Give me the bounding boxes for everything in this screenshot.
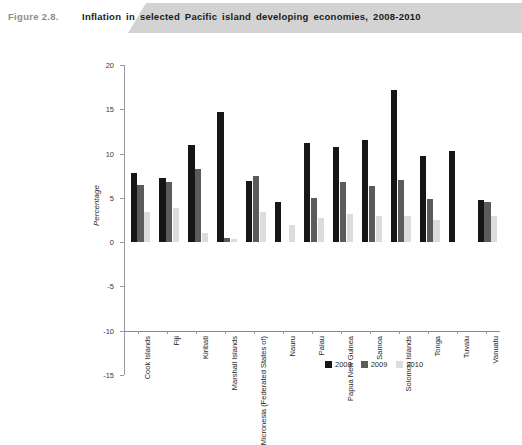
- bar: [260, 212, 266, 242]
- x-tick: [341, 331, 342, 334]
- bar: [188, 145, 194, 242]
- category-label: Tonga: [433, 336, 442, 356]
- y-tick--5: -5: [120, 286, 124, 287]
- y-tick-label: 5: [110, 193, 114, 202]
- y-tick-20: 20: [120, 65, 124, 66]
- figure-header: Figure 2.8. Inflation in selected Pacifi…: [0, 0, 522, 36]
- chart-figure: Percentage 20151050-5-10-15 Cook Islands…: [0, 36, 522, 390]
- y-tick-label: 0: [110, 238, 114, 247]
- figure-title: Inflation in selected Pacific island dev…: [82, 11, 421, 22]
- bar: [478, 200, 484, 243]
- bar: [484, 202, 490, 242]
- y-tick-label: 15: [106, 105, 114, 114]
- legend-swatch: [325, 361, 332, 368]
- chart-legend: 200820092010: [325, 360, 423, 369]
- y-tick-label: -10: [103, 326, 114, 335]
- x-tick: [370, 331, 371, 334]
- figure-number: Figure 2.8.: [8, 11, 59, 22]
- x-tick: [138, 331, 139, 334]
- x-tick: [399, 331, 400, 334]
- x-tick: [167, 331, 168, 334]
- y-tick-5: 5: [120, 198, 124, 199]
- y-tick-0: 0: [120, 242, 124, 243]
- bar: [376, 216, 382, 243]
- y-tick-15: 15: [120, 109, 124, 110]
- bar: [391, 90, 397, 242]
- category-label: Samoa: [375, 336, 384, 360]
- y-tick-label: -5: [107, 282, 114, 291]
- y-tick-10: 10: [120, 154, 124, 155]
- category-label: Palau: [317, 336, 326, 355]
- x-tick: [312, 331, 313, 334]
- x-tick: [428, 331, 429, 334]
- y-axis-line: [124, 65, 125, 375]
- bar: [427, 199, 433, 242]
- bar: [398, 180, 404, 242]
- bar: [433, 220, 439, 242]
- x-tick: [225, 331, 226, 334]
- bar: [289, 225, 295, 242]
- category-label: Fiji: [172, 336, 181, 346]
- bar: [369, 186, 375, 242]
- bar: [217, 112, 223, 242]
- x-tick: [486, 331, 487, 334]
- y-tick-label: -15: [103, 371, 114, 380]
- legend-item: 2008: [325, 360, 352, 369]
- category-label: Marshall Islands: [230, 336, 239, 390]
- legend-swatch: [396, 361, 403, 368]
- y-tick-label: 20: [106, 61, 114, 70]
- bar: [304, 143, 310, 242]
- y-tick-label: 10: [106, 149, 114, 158]
- bar: [420, 156, 426, 242]
- category-label: Micronesia (Federated States of): [259, 336, 268, 445]
- bar: [404, 216, 410, 243]
- category-label: Vanuatu: [491, 336, 500, 363]
- bar: [311, 198, 317, 242]
- bar: [318, 218, 324, 242]
- bar: [340, 182, 346, 242]
- y-tick--10: -10: [120, 331, 124, 332]
- legend-item: 2009: [361, 360, 388, 369]
- bar: [224, 238, 230, 242]
- x-tick: [196, 331, 197, 334]
- category-label: Cook Islands: [143, 336, 152, 379]
- bar: [231, 239, 237, 243]
- bar: [275, 202, 281, 242]
- x-tick: [457, 331, 458, 334]
- bar: [173, 208, 179, 243]
- bar: [144, 212, 150, 242]
- bar: [491, 216, 497, 243]
- y-tick--15: -15: [120, 375, 124, 376]
- category-label: Tuvalu: [462, 336, 471, 358]
- bar: [449, 151, 455, 242]
- bar: [347, 214, 353, 242]
- bar: [253, 176, 259, 242]
- bar: [202, 233, 208, 242]
- legend-item: 2010: [396, 360, 423, 369]
- y-axis-title: Percentage: [92, 185, 101, 226]
- category-label: Kiribati: [201, 336, 210, 359]
- plot-area: 20151050-5-10-15 Cook IslandsFijiKiribat…: [124, 65, 500, 375]
- legend-label: 2010: [406, 360, 423, 369]
- bar: [195, 169, 201, 243]
- category-label: Nauru: [288, 336, 297, 356]
- bar: [131, 173, 137, 242]
- bar: [159, 178, 165, 243]
- x-tick: [283, 331, 284, 334]
- x-tick: [254, 331, 255, 334]
- legend-label: 2008: [335, 360, 352, 369]
- legend-swatch: [361, 361, 368, 368]
- bar: [166, 182, 172, 242]
- bar: [333, 147, 339, 243]
- bar: [137, 185, 143, 243]
- bar: [246, 181, 252, 242]
- legend-label: 2009: [371, 360, 388, 369]
- bar: [362, 140, 368, 242]
